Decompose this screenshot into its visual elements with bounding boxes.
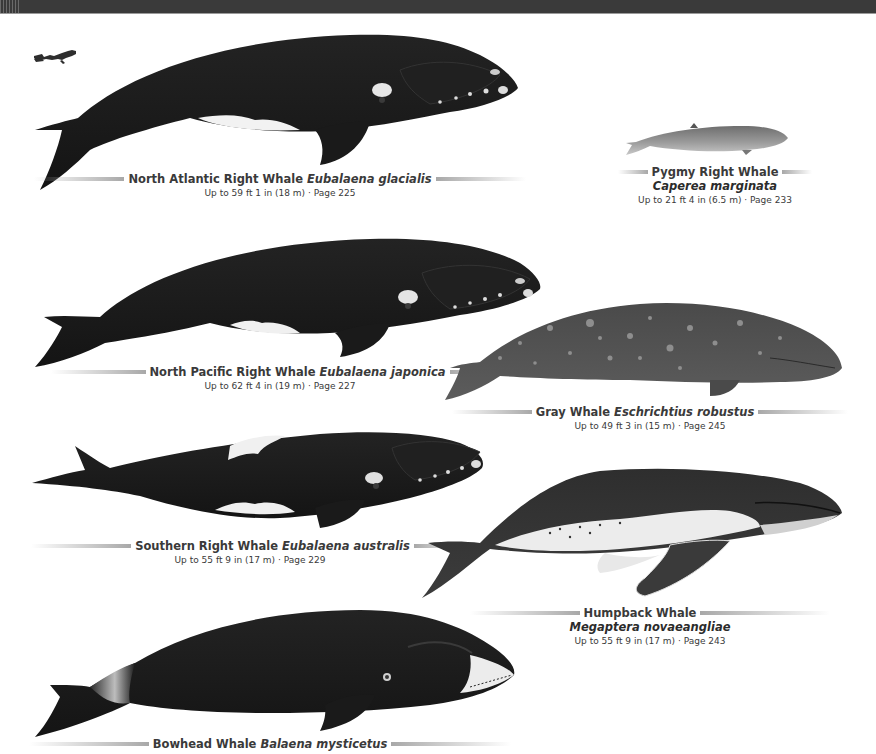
size-and-page: Up to 59 ft 1 in (18 m) · Page 225 (60, 187, 500, 200)
scientific-name: Caperea marginata (600, 179, 830, 193)
common-name: Pygmy Right Whale (652, 165, 779, 179)
north-atlantic-right-whale-caption: North Atlantic Right WhaleEubalaena glac… (60, 172, 500, 200)
size-and-page: Up to 21 ft 4 in (6.5 m) · Page 233 (600, 194, 830, 207)
common-name: Humpback Whale (584, 606, 697, 620)
humpback-whale-illustration (420, 463, 850, 603)
common-name: North Atlantic Right Whale (128, 172, 303, 186)
scientific-name: Balaena mysticetus (260, 737, 387, 751)
scientific-name: Eubalaena glacialis (307, 172, 432, 186)
common-name: Gray Whale (536, 405, 610, 419)
size-and-page: Up to 49 ft 3 in (15 m) · Page 245 (465, 420, 835, 433)
bowhead-whale-caption: Bowhead WhaleBalaena mysticetus (40, 737, 500, 751)
scientific-name: Eubalaena australis (282, 539, 410, 553)
north-atlantic-right-whale-illustration (30, 30, 520, 195)
scientific-name: Eubalaena japonica (319, 365, 445, 379)
common-name: Bowhead Whale (153, 737, 257, 751)
southern-right-whale-caption: Southern Right WhaleEubalaena australis … (40, 539, 460, 567)
bowhead-whale-illustration (30, 605, 520, 740)
header-stripes (0, 0, 19, 13)
common-name: Southern Right Whale (135, 539, 278, 553)
pygmy-right-whale-caption: Pygmy Right Whale Caperea marginata Up t… (600, 165, 830, 207)
gray-whale-caption: Gray WhaleEschrichtius robustus Up to 49… (465, 405, 835, 433)
header-bar (0, 0, 876, 14)
pygmy-right-whale-illustration (622, 120, 792, 160)
common-name: North Pacific Right Whale (150, 365, 316, 379)
gray-whale-illustration (440, 298, 845, 403)
scientific-name: Eschrichtius robustus (614, 405, 754, 419)
size-and-page: Up to 55 ft 9 in (17 m) · Page 229 (40, 554, 460, 567)
